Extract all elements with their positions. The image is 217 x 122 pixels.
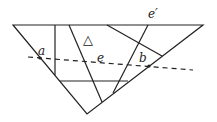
label-e-prime: e′: [148, 7, 158, 21]
label-e: e: [97, 51, 104, 65]
label-a: a: [38, 44, 45, 58]
outer-triangle: [13, 25, 203, 114]
diagram-canvas: a b e e′ △: [0, 0, 217, 122]
label-triangle: △: [83, 32, 93, 47]
label-b: b: [139, 51, 147, 65]
point-b: [147, 64, 150, 67]
dashed-line: [28, 57, 193, 70]
